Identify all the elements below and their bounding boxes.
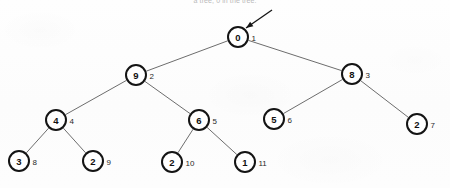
tree-node[interactable]: 27 [407,114,436,134]
node-key-label: 0 [235,32,240,43]
tree-edge [178,129,193,152]
node-key-label: 1 [242,157,248,168]
node-key-label: 2 [169,157,174,168]
tree-edge [207,127,237,154]
tree-node[interactable]: 29 [83,151,112,171]
arrow-head [246,22,253,28]
node-array-index-label: 4 [70,117,75,126]
node-array-index-label: 5 [213,117,218,126]
node-key-label: 6 [196,115,201,126]
tree-edge [361,81,409,118]
tree-node[interactable]: 83 [342,64,371,84]
tree-diagram-figure: a tree; 0 in the tree. 01928344655627382… [0,0,450,188]
tree-node[interactable]: 210 [162,152,195,172]
node-array-index-label: 1 [252,34,257,43]
node-array-index-label: 2 [150,72,155,81]
tree-edge [146,41,227,71]
node-key-label: 3 [16,156,21,167]
node-array-index-label: 10 [186,159,195,168]
node-array-index-label: 3 [366,71,371,80]
tree-edge [145,81,190,113]
tree-edge [26,128,48,153]
tree-node[interactable]: 111 [235,152,267,172]
node-key-label: 4 [53,115,59,126]
tree-edge [248,40,341,70]
node-key-label: 9 [133,70,138,81]
node-array-index-label: 7 [431,121,436,130]
node-array-index-label: 6 [288,116,293,125]
binary-tree-graphic: 019283446556273829210111 [0,0,450,188]
node-array-index-label: 11 [259,159,268,168]
tree-edge [284,79,343,113]
tree-node[interactable]: 65 [189,110,218,130]
tree-node[interactable]: 38 [9,151,38,171]
node-key-label: 2 [414,119,419,130]
tree-node[interactable]: 01 [228,27,257,47]
tree-node[interactable]: 92 [126,65,155,85]
node-array-index-label: 9 [107,158,112,167]
tree-edge [63,128,85,153]
tree-node[interactable]: 56 [264,109,293,129]
node-key-label: 8 [349,69,354,80]
tree-node[interactable]: 44 [46,110,75,130]
node-array-index-label: 8 [33,158,38,167]
root-pointer-arrow-icon [246,10,272,28]
node-key-label: 5 [271,114,277,125]
node-key-label: 2 [90,156,95,167]
tree-edge [66,80,127,114]
